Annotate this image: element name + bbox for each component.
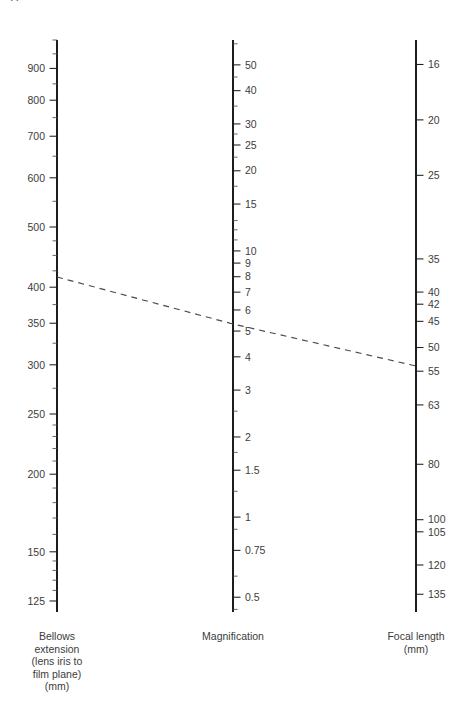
axis-bellows-extension: 900800700600500400350300250200150125 [27,40,57,612]
caption-line: Focal length [387,630,444,642]
tick-label-magnification-10: 6 [245,304,251,316]
tick-label-focal-length-9: 63 [428,399,440,411]
tick-label-magnification-8: 8 [245,270,251,282]
tick-label-focal-length-1: 20 [428,114,440,126]
tick-label-magnification-15: 1.5 [245,464,260,476]
index-line-group [57,277,416,366]
tick-label-focal-length-14: 135 [428,588,446,600]
tick-label-magnification-5: 15 [245,198,257,210]
axis-caption-magnification: Magnification [202,630,264,642]
tick-label-focal-length-8: 55 [428,365,440,377]
tick-label-magnification-13: 3 [245,384,251,396]
worked-example-index-line [57,277,416,366]
axis-focal-length: 1620253540424550556380100105120135 [416,40,446,612]
tick-label-bellows-extension-1: 800 [27,94,45,106]
tick-label-focal-length-10: 80 [428,458,440,470]
tick-label-bellows-extension-5: 400 [27,281,45,293]
tick-label-focal-length-7: 50 [428,341,440,353]
tick-label-bellows-extension-7: 300 [27,359,45,371]
tick-label-magnification-4: 20 [245,164,257,176]
tick-label-magnification-3: 25 [245,139,257,151]
tick-label-magnification-2: 30 [245,118,257,130]
caption-line: Magnification [202,630,264,642]
tick-label-focal-length-11: 100 [428,513,446,525]
tick-label-bellows-extension-8: 250 [27,408,45,420]
tick-label-focal-length-13: 120 [428,559,446,571]
tick-label-focal-length-5: 42 [428,298,440,310]
caption-line: Bellows [39,630,75,642]
tick-label-focal-length-0: 16 [428,58,440,70]
tick-label-bellows-extension-6: 350 [27,317,45,329]
tick-label-bellows-extension-2: 700 [27,130,45,142]
tick-label-focal-length-6: 45 [428,315,440,327]
axis-caption-bellows-extension: Bellowsextension(lens iris tofilm plane)… [32,630,83,692]
tick-label-focal-length-3: 35 [428,253,440,265]
tick-label-magnification-9: 7 [245,286,251,298]
caption-line: (mm) [45,680,70,692]
tick-label-magnification-1: 40 [245,84,257,96]
tick-label-magnification-16: 1 [245,511,251,523]
tick-label-bellows-extension-4: 500 [27,221,45,233]
caption-line: film plane) [33,668,81,680]
tick-label-magnification-7: 9 [245,257,251,269]
tick-label-magnification-0: 50 [245,59,257,71]
tick-label-bellows-extension-9: 200 [27,468,45,480]
nomogram-page: 44 CLOSE-UP AND MACRO PHOTOGRAPHY 900800… [0,0,472,712]
caption-line: extension [35,643,80,655]
tick-label-magnification-12: 4 [245,351,251,363]
tick-label-bellows-extension-11: 125 [27,595,45,607]
nomogram-chart: 9008007006005004003503002502001501255040… [0,0,472,712]
axis-caption-focal-length: Focal length(mm) [387,630,444,655]
axis-magnification: 50403025201510987654321.510.750.5 [233,40,266,612]
tick-label-magnification-11: 5 [245,325,251,337]
captions-group: Bellowsextension(lens iris tofilm plane)… [32,630,445,692]
tick-label-focal-length-12: 105 [428,526,446,538]
tick-label-magnification-14: 2 [245,431,251,443]
caption-line: (lens iris to [32,655,83,667]
tick-label-magnification-18: 0.5 [245,591,260,603]
tick-label-bellows-extension-3: 600 [27,172,45,184]
tick-label-bellows-extension-10: 150 [27,546,45,558]
tick-label-magnification-6: 10 [245,245,257,257]
tick-label-magnification-17: 0.75 [245,544,266,556]
caption-line: (mm) [404,643,429,655]
tick-label-focal-length-4: 40 [428,286,440,298]
axes-group: 9008007006005004003503002502001501255040… [27,40,445,612]
tick-label-bellows-extension-0: 900 [27,62,45,74]
tick-label-focal-length-2: 25 [428,169,440,181]
